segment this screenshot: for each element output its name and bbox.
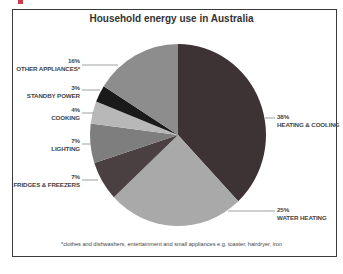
label-water-heating: 25% WATER HEATING (277, 206, 327, 221)
label-heating-cooling: 38% HEATING & COOLING (277, 113, 339, 128)
footnote: *clothes and dishwashers, entertainment … (0, 241, 343, 247)
label-other-appliances: 16% OTHER APPLIANCES* (16, 57, 80, 72)
label-standby-power: 3% STANDBY POWER (27, 84, 80, 99)
label-lighting: 7% LIGHTING (51, 137, 80, 152)
label-cooking: 4% COOKING (51, 106, 80, 121)
label-fridges-freezers: 7% FRIDGES & FREEZERS (13, 173, 80, 188)
